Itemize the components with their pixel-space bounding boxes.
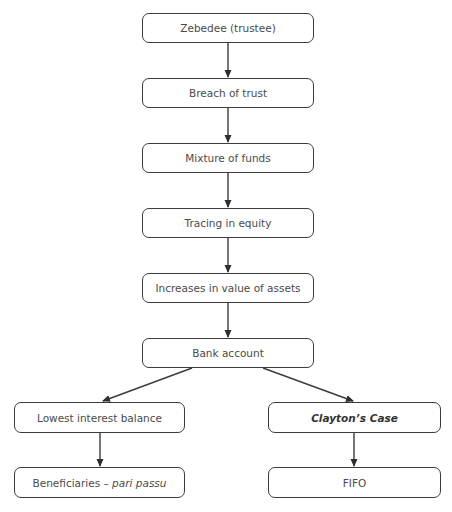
node-label: Breach of trust [189, 87, 267, 99]
node-claytons-case: Clayton’s Case [268, 402, 441, 433]
node-label: Clayton’s Case [311, 412, 398, 424]
node-label: Bank account [192, 347, 264, 359]
node-label: FIFO [343, 477, 366, 489]
node-label: Mixture of funds [185, 152, 270, 164]
arrow-bank-clayton [263, 368, 353, 401]
node-fifo: FIFO [268, 467, 441, 498]
node-zebedee: Zebedee (trustee) [142, 13, 314, 43]
node-mixture-of-funds: Mixture of funds [142, 143, 314, 173]
node-breach-of-trust: Breach of trust [142, 78, 314, 108]
node-label: Lowest interest balance [37, 412, 162, 424]
node-label: Zebedee (trustee) [180, 22, 276, 34]
node-label-italic: pari passu [112, 477, 166, 489]
node-bank-account: Bank account [142, 338, 314, 368]
node-label: Tracing in equity [185, 217, 272, 229]
node-beneficiaries-pari-passu: Beneficiaries – pari passu [14, 467, 185, 498]
arrow-bank-lowest [103, 368, 192, 401]
node-label: Beneficiaries – pari passu [33, 477, 167, 489]
node-increases-in-value: Increases in value of assets [142, 273, 314, 303]
node-label: Increases in value of assets [155, 282, 300, 294]
node-tracing-in-equity: Tracing in equity [142, 208, 314, 238]
node-lowest-interest-balance: Lowest interest balance [14, 402, 185, 433]
connectors [0, 0, 452, 512]
node-label-text: Beneficiaries – [33, 477, 113, 489]
